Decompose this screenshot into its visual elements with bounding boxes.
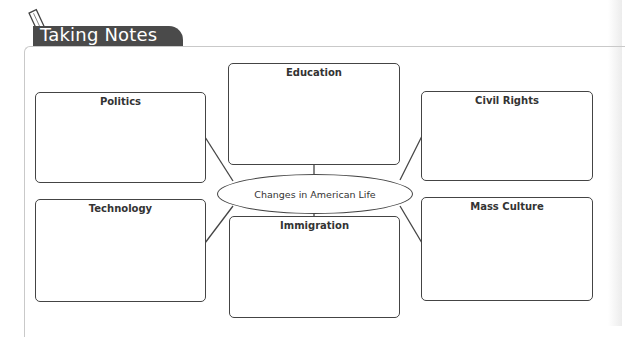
box-technology[interactable]: Technology (35, 199, 206, 302)
box-civil-rights[interactable]: Civil Rights (421, 91, 593, 181)
box-politics[interactable]: Politics (35, 92, 206, 183)
box-title-technology: Technology (36, 203, 205, 214)
box-title-politics: Politics (36, 96, 205, 107)
box-title-education: Education (229, 67, 399, 78)
box-immigration[interactable]: Immigration (229, 216, 400, 318)
box-title-civil-rights: Civil Rights (422, 95, 592, 106)
box-title-immigration: Immigration (230, 220, 399, 231)
center-label: Changes in American Life (254, 189, 375, 200)
center-oval: Changes in American Life (217, 174, 413, 214)
box-mass-culture[interactable]: Mass Culture (421, 197, 593, 301)
box-education[interactable]: Education (228, 63, 400, 165)
box-title-mass-culture: Mass Culture (422, 201, 592, 212)
